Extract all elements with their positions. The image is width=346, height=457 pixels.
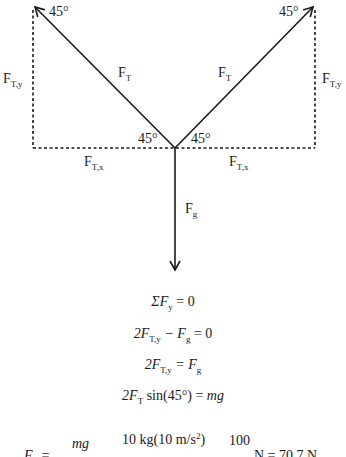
angle-label-left-origin: 45°	[138, 132, 158, 146]
free-body-diagram	[0, 0, 346, 290]
left-y-component-label: FT,y	[3, 72, 22, 89]
angle-label-left-tip: 45°	[49, 5, 69, 19]
left-tension-arrow	[35, 7, 175, 148]
right-x-component-label: FT,x	[229, 155, 248, 172]
angle-label-right-tip: 45°	[279, 5, 299, 19]
equation-sine: 2FT sin(45°) = mg	[0, 388, 346, 406]
right-tension-label: FT	[218, 66, 231, 83]
equation-sum-forces: ΣFy = 0	[0, 294, 346, 312]
equation-expand: 2FT,y − Fg = 0	[0, 326, 346, 344]
angle-label-right-origin: 45°	[191, 132, 211, 146]
left-x-component-label: FT,x	[84, 155, 103, 172]
right-tension-arrow	[175, 7, 313, 148]
gravity-label: Fg	[185, 202, 197, 219]
left-tension-label: FT	[118, 66, 131, 83]
right-y-component-label: FT,y	[322, 72, 341, 89]
equation-equal: 2FT,y = Fg	[0, 357, 346, 375]
